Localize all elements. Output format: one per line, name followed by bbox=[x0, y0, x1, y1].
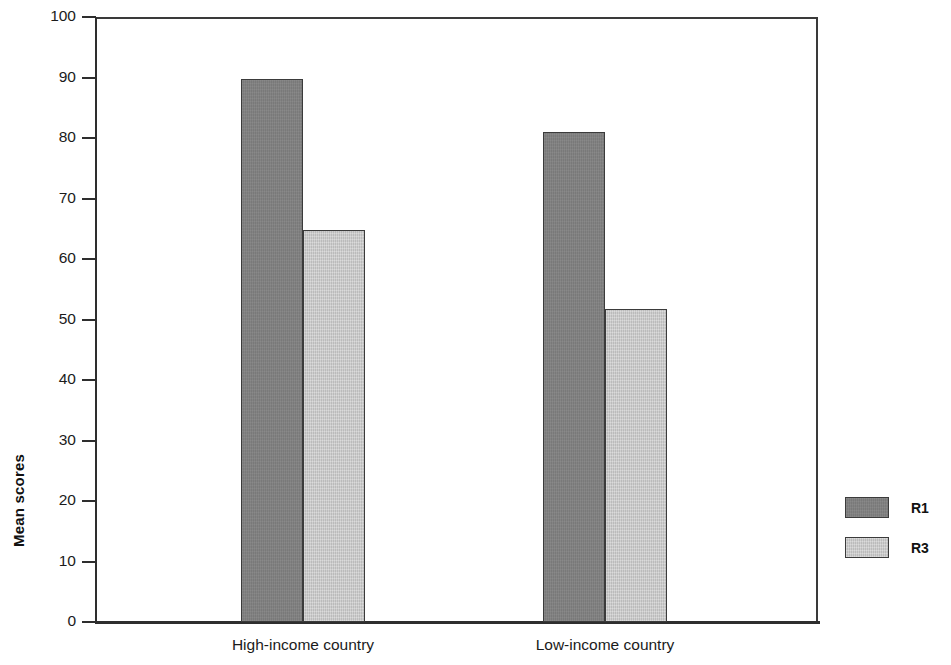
y-axis-tick-label: 0 bbox=[0, 613, 76, 629]
y-axis-tick-mark bbox=[82, 258, 96, 260]
x-axis-category-label: High-income country bbox=[153, 636, 453, 654]
y-axis-tick-label: 40 bbox=[0, 371, 76, 387]
y-axis-tick-label: 50 bbox=[0, 311, 76, 327]
legend-item-r1: R1 bbox=[845, 497, 929, 518]
legend-swatch-r1 bbox=[845, 497, 889, 518]
y-axis-tick-mark bbox=[82, 440, 96, 442]
y-axis-tick-label: 60 bbox=[0, 250, 76, 266]
y-axis-tick-label-text: 40 bbox=[14, 371, 76, 387]
y-axis-tick-label-text: 80 bbox=[14, 129, 76, 145]
y-axis-tick-label-text: 100 bbox=[14, 8, 76, 24]
y-axis-tick-mark bbox=[82, 77, 96, 79]
y-axis-tick-mark bbox=[82, 319, 96, 321]
y-axis-tick-mark bbox=[82, 561, 96, 563]
y-axis-tick-mark bbox=[82, 379, 96, 381]
bar-chart-figure: Mean scores 0102030405060708090100 High-… bbox=[0, 0, 951, 665]
y-axis-tick-mark bbox=[82, 621, 96, 623]
legend-label-r3: R3 bbox=[911, 540, 929, 556]
bar-r3-group-2 bbox=[605, 309, 667, 622]
y-axis-tick-label: 70 bbox=[0, 190, 76, 206]
x-axis-category-label: Low-income country bbox=[455, 636, 755, 654]
y-axis-tick-label-text: 20 bbox=[14, 492, 76, 508]
legend-item-r3: R3 bbox=[845, 537, 929, 558]
bar-r1-group-2 bbox=[543, 132, 605, 622]
y-axis-tick-label: 80 bbox=[0, 129, 76, 145]
y-axis-tick-label: 10 bbox=[0, 553, 76, 569]
legend-label-r1: R1 bbox=[911, 500, 929, 516]
y-axis-tick-mark bbox=[82, 500, 96, 502]
y-axis-tick-label: 100 bbox=[0, 8, 76, 24]
y-axis-tick-mark bbox=[82, 198, 96, 200]
y-axis-tick-label-text: 30 bbox=[14, 432, 76, 448]
y-axis-tick-label: 90 bbox=[0, 69, 76, 85]
y-axis-tick-label-text: 50 bbox=[14, 311, 76, 327]
bar-r3-group-1 bbox=[303, 230, 365, 622]
y-axis-tick-label-text: 70 bbox=[14, 190, 76, 206]
y-axis-tick-label-text: 0 bbox=[14, 613, 76, 629]
y-axis-tick-mark bbox=[82, 16, 96, 18]
bar-r1-group-1 bbox=[241, 79, 303, 622]
legend-swatch-r3 bbox=[845, 537, 889, 558]
plot-area bbox=[95, 17, 818, 623]
y-axis-tick-mark bbox=[82, 137, 96, 139]
y-axis-tick-label-text: 90 bbox=[14, 69, 76, 85]
y-axis-tick-label-text: 60 bbox=[14, 250, 76, 266]
y-axis-tick-label: 30 bbox=[0, 432, 76, 448]
y-axis-tick-label: 20 bbox=[0, 492, 76, 508]
y-axis-tick-label-text: 10 bbox=[14, 553, 76, 569]
x-axis-line bbox=[95, 621, 820, 624]
